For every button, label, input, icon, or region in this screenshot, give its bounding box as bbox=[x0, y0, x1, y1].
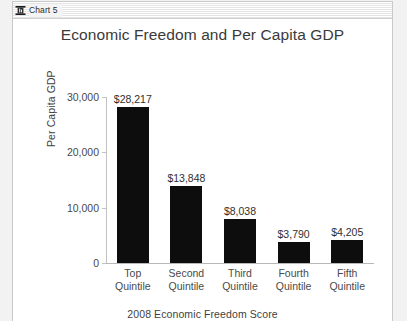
y-tick-label: 0 bbox=[93, 257, 99, 269]
y-tick-mark bbox=[102, 263, 106, 264]
bar-group: $8,038ThirdQuintile bbox=[213, 97, 267, 263]
bar-value-label: $28,217 bbox=[114, 93, 152, 105]
x-category-label: ThirdQuintile bbox=[222, 267, 258, 292]
bar-group: $28,217TopQuintile bbox=[106, 97, 160, 263]
bar-value-label: $8,038 bbox=[224, 205, 256, 217]
bar-value-label: $13,848 bbox=[167, 172, 205, 184]
window-titlebar[interactable]: Chart 5 bbox=[13, 2, 392, 19]
x-category-label: TopQuintile bbox=[115, 267, 151, 292]
chart-window: Chart 5 Economic Freedom and Per Capita … bbox=[12, 1, 393, 321]
chart-document-icon bbox=[15, 5, 26, 16]
bar[interactable] bbox=[170, 186, 202, 263]
bar[interactable] bbox=[224, 219, 256, 263]
y-tick-label: 20,000 bbox=[67, 146, 99, 158]
bar-value-label: $4,205 bbox=[331, 226, 363, 238]
desktop-backdrop: Chart 5 Economic Freedom and Per Capita … bbox=[0, 0, 407, 321]
x-axis-title: 2008 Economic Freedom Score bbox=[13, 308, 392, 320]
bar[interactable] bbox=[117, 107, 149, 263]
x-axis-line bbox=[106, 263, 374, 264]
y-tick-label: 10,000 bbox=[67, 202, 99, 214]
y-tick-label: 30,000 bbox=[67, 91, 99, 103]
bar[interactable] bbox=[278, 242, 310, 263]
bar[interactable] bbox=[331, 240, 363, 263]
bar-group: $4,205FifthQuintile bbox=[320, 97, 374, 263]
bar-group: $3,790FourthQuintile bbox=[267, 97, 321, 263]
x-category-label: FourthQuintile bbox=[276, 267, 312, 292]
bar-value-label: $3,790 bbox=[278, 228, 310, 240]
bar-group: $13,848SecondQuintile bbox=[160, 97, 214, 263]
y-axis-title: Per Capita GDP bbox=[45, 70, 57, 147]
x-category-label: FifthQuintile bbox=[329, 267, 365, 292]
chart-canvas: Economic Freedom and Per Capita GDP Per … bbox=[13, 19, 392, 321]
plot-area: 010,00020,00030,000 $28,217TopQuintile$1… bbox=[106, 97, 374, 264]
chart-title: Economic Freedom and Per Capita GDP bbox=[13, 26, 392, 44]
x-category-label: SecondQuintile bbox=[169, 267, 205, 292]
window-title-label: Chart 5 bbox=[29, 4, 62, 17]
